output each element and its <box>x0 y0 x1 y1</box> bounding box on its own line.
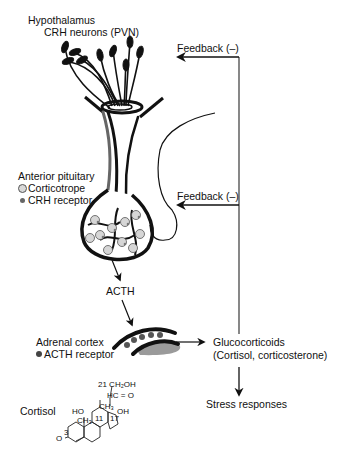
adrenal-cortex-title: Adrenal cortex <box>36 336 114 348</box>
median-eminence <box>85 97 163 117</box>
ring-11-label: 11 <box>95 414 103 423</box>
crh-receptor-dot-icon <box>20 198 25 203</box>
adrenal-legend: Adrenal cortex ACTH receptor <box>36 336 114 360</box>
corticotrope-ring-icon <box>18 184 27 193</box>
ho-label: HO <box>72 407 84 416</box>
arrow-pituitary-to-acth <box>112 260 120 280</box>
stress-responses-label: Stress responses <box>206 398 287 410</box>
feedback-lower-label: Feedback (–) <box>177 190 239 202</box>
hypothalamus-title: Hypothalamus <box>28 14 95 26</box>
c21-label: 21 CH₂OH <box>98 380 136 389</box>
ring-17-label: 17 <box>110 414 119 423</box>
crh-neurons <box>60 36 144 108</box>
arrow-acth-to-adrenal <box>122 300 132 325</box>
keto-label: O <box>56 434 62 443</box>
posterior-pituitary-outline <box>150 113 215 240</box>
legend-crh-receptor: CRH receptor <box>18 194 94 206</box>
crh-neurons-label: CRH neurons (PVN) <box>44 26 139 38</box>
cortisol-label: Cortisol <box>20 405 56 417</box>
pituitary-legend: Anterior pituitary Corticotrope CRH rece… <box>18 170 94 206</box>
anterior-pituitary-title: Anterior pituitary <box>18 170 94 182</box>
acth-receptor-dot-icon <box>36 351 42 357</box>
legend-acth-receptor: ACTH receptor <box>36 348 114 360</box>
feedback-upper-label: Feedback (–) <box>177 42 239 54</box>
glucocorticoids-title: Glucocorticoids <box>213 336 285 348</box>
acth-label: ACTH <box>106 285 135 297</box>
carbonyl-label: HC = O <box>107 391 134 400</box>
glucocorticoids-subtitle: (Cortisol, corticosterone) <box>213 349 327 361</box>
adrenal-gland <box>114 329 180 355</box>
ring-3-label: 3 <box>64 428 68 437</box>
legend-corticotrope: Corticotrope <box>18 182 94 194</box>
ch3-a-label: CH₃ <box>77 416 92 425</box>
hpa-axis-artwork <box>0 0 340 458</box>
ch3-b-label: CH₃ <box>99 402 114 411</box>
